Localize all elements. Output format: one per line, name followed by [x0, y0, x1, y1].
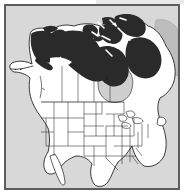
newfoundland-island — [157, 117, 166, 126]
figure-container — [0, 0, 184, 194]
north-america-range-map — [6, 6, 178, 188]
map-frame — [4, 4, 180, 190]
